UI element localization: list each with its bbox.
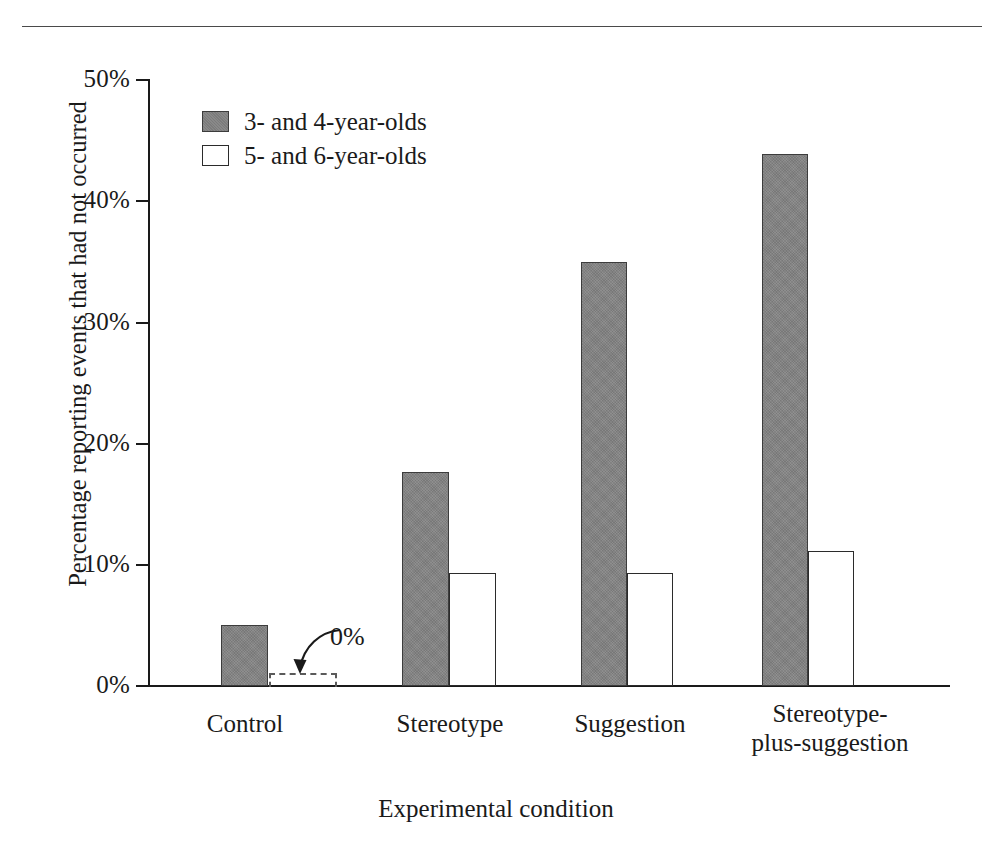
bar-stereotype-plus-suggestion-5-6-year-olds [808,551,854,686]
open-white-swatch-icon [202,145,229,166]
x-category-label-line1: Stereotype- [700,700,960,729]
bar-suggestion-3-4-year-olds [581,262,627,686]
y-tick-mark-50 [136,79,150,81]
x-category-label-stereotype: Stereotype [350,710,550,739]
legend-entry-3-and-4-year-olds: 3- and 4-year-olds [202,104,427,138]
figure-container: 50% 40% 30% 20% 10% 0% Percentage report… [0,0,992,854]
y-axis-line [148,79,150,687]
y-tick-mark-40 [136,200,150,202]
bar-suggestion-5-6-year-olds [627,573,673,686]
legend-label-2: 5- and 6-year-olds [244,143,427,168]
x-axis-title: Experimental condition [0,795,992,823]
y-tick-mark-0 [136,685,150,687]
bar-chart-plot-area: 50% 40% 30% 20% 10% 0% Percentage report… [0,0,992,854]
filled-gray-swatch-icon [202,111,229,132]
bar-stereotype-plus-suggestion-3-4-year-olds [762,154,808,686]
y-tick-mark-10 [136,564,150,566]
bar-control-3-4-year-olds [221,625,268,686]
legend: 3- and 4-year-olds 5- and 6-year-olds [202,104,427,172]
y-tick-mark-30 [136,322,150,324]
y-tick-mark-20 [136,443,150,445]
y-axis-title: Percentage reporting events that had not… [64,44,92,644]
x-category-label-stereotype-plus-suggestion: Stereotype- plus-suggestion [700,700,960,758]
bar-stereotype-5-6-year-olds [449,573,496,686]
x-category-label-line2: plus-suggestion [700,729,960,758]
legend-entry-5-and-6-year-olds: 5- and 6-year-olds [202,138,427,172]
bar-stereotype-3-4-year-olds [402,472,449,686]
legend-label-1: 3- and 4-year-olds [244,109,427,134]
zero-callout-label: 0% [330,622,365,652]
x-category-label-control: Control [170,710,320,739]
y-tick-label-0: 0% [52,672,130,697]
